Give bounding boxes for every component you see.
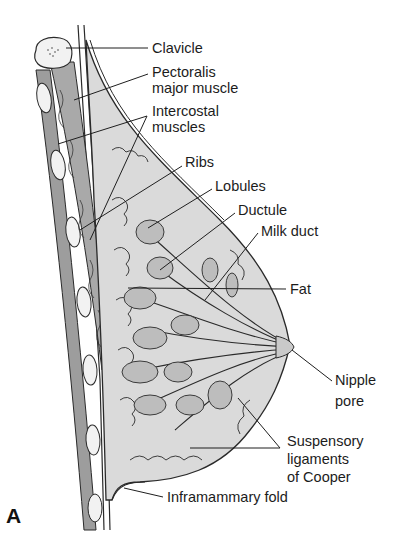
- label-ductule: Ductule: [238, 202, 287, 218]
- panel-letter: A: [6, 504, 21, 528]
- label-inframammary-fold: Inframammary fold: [167, 489, 288, 505]
- label-suspensory-line3: of Cooper: [287, 469, 351, 485]
- label-pectoralis-line1: Pectoralis: [152, 64, 216, 80]
- label-suspensory-line1: Suspensory: [287, 433, 364, 449]
- label-ribs: Ribs: [185, 154, 214, 170]
- clavicle-bone: [35, 38, 72, 69]
- label-intercostal-line1: Intercostal: [152, 103, 219, 119]
- label-intercostal-line2: muscles: [152, 119, 205, 135]
- label-fat: Fat: [290, 281, 311, 297]
- label-nipple-line1: Nipple: [335, 372, 376, 388]
- label-nipple-line2: pore: [335, 393, 364, 409]
- label-clavicle: Clavicle: [152, 40, 203, 56]
- label-lobules: Lobules: [215, 178, 266, 194]
- nipple: [276, 336, 294, 358]
- label-suspensory-line2: ligaments: [287, 451, 349, 467]
- breast-anatomy-figure: Clavicle Pectoralis major muscle Interco…: [0, 0, 401, 539]
- label-milk-duct: Milk duct: [261, 223, 318, 239]
- label-pectoralis-line2: major muscle: [152, 80, 238, 96]
